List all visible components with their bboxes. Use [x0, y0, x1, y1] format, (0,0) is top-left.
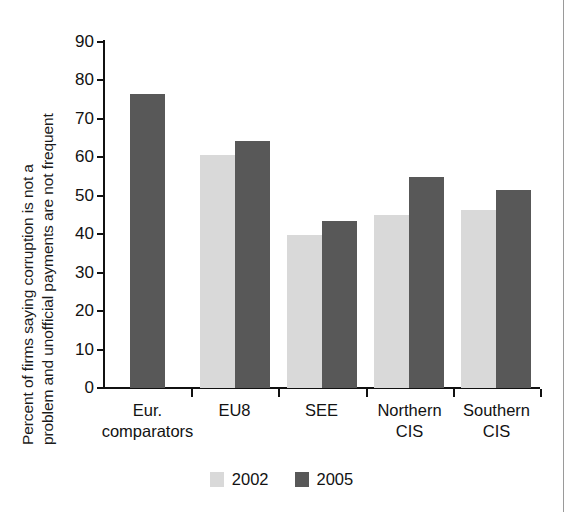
- bar-2005-eur-comparators: [130, 94, 165, 388]
- y-tick-0: [97, 387, 104, 389]
- y-tick-40: [97, 233, 104, 235]
- y-tick-label-10: 10: [64, 340, 94, 360]
- x-tick-1: [278, 389, 280, 397]
- x-axis-label-4-line-1: CIS: [441, 421, 552, 442]
- y-tick-label-20: 20: [64, 301, 94, 321]
- legend-item-2002: 2002: [210, 470, 269, 489]
- y-tick-label-wrap-90: 90: [60, 42, 94, 43]
- y-tick-label-90: 90: [64, 32, 94, 52]
- x-axis-label-4: SouthernCIS: [441, 400, 552, 442]
- bar-2005-southern-cis: [496, 190, 531, 388]
- page-edge-rule: [563, 0, 564, 512]
- bar-chart-figure: Percent of firms saying corruption is no…: [0, 0, 583, 512]
- y-tick-30: [97, 272, 104, 274]
- y-tick-label-70: 70: [64, 109, 94, 129]
- y-tick-60: [97, 156, 104, 158]
- y-axis-title: Percent of firms saying corruption is no…: [0, 0, 66, 460]
- legend-label-2002: 2002: [232, 470, 269, 489]
- y-tick-70: [97, 118, 104, 120]
- y-axis-title-line-2: problem and unofficial payments are not …: [38, 113, 57, 445]
- chart-legend: 2002 2005: [0, 470, 563, 489]
- y-tick-label-40: 40: [64, 224, 94, 244]
- y-tick-label-50: 50: [64, 186, 94, 206]
- y-tick-label-wrap-50: 50: [60, 196, 94, 197]
- legend-swatch-2005: [295, 472, 309, 487]
- x-axis-label-0-line-1: comparators: [92, 421, 203, 442]
- bar-2002-northern-cis: [374, 215, 409, 388]
- y-tick-20: [97, 310, 104, 312]
- y-tick-label-wrap-70: 70: [60, 119, 94, 120]
- y-tick-90: [97, 41, 104, 43]
- x-tick-0: [191, 389, 193, 397]
- bar-2005-see: [322, 221, 357, 388]
- y-axis-title-line-1: Percent of firms saying corruption is no…: [18, 164, 37, 445]
- bar-2005-eu8: [235, 141, 270, 388]
- y-axis-line: [103, 40, 105, 389]
- legend-item-2005: 2005: [295, 470, 354, 489]
- legend-swatch-2002: [210, 472, 224, 487]
- y-tick-label-wrap-60: 60: [60, 157, 94, 158]
- bar-2002-see: [287, 235, 322, 388]
- y-tick-label-60: 60: [64, 147, 94, 167]
- y-tick-80: [97, 79, 104, 81]
- bar-2005-northern-cis: [409, 177, 444, 388]
- y-tick-label-wrap-20: 20: [60, 311, 94, 312]
- y-tick-10: [97, 349, 104, 351]
- y-tick-label-wrap-80: 80: [60, 80, 94, 81]
- y-tick-50: [97, 195, 104, 197]
- y-tick-label-wrap-0: 0: [60, 388, 94, 389]
- y-tick-label-wrap-40: 40: [60, 234, 94, 235]
- legend-label-2005: 2005: [317, 470, 354, 489]
- x-tick-3: [453, 389, 455, 397]
- x-tick-2: [366, 389, 368, 397]
- y-tick-label-wrap-10: 10: [60, 350, 94, 351]
- bar-2002-eu8: [200, 155, 235, 388]
- y-tick-label-0: 0: [64, 378, 94, 398]
- x-axis-label-4-line-0: Southern: [441, 400, 552, 421]
- y-tick-label-30: 30: [64, 263, 94, 283]
- y-tick-label-80: 80: [64, 70, 94, 90]
- bar-2002-southern-cis: [461, 210, 496, 388]
- y-tick-label-wrap-30: 30: [60, 273, 94, 274]
- x-tick-4: [540, 389, 542, 397]
